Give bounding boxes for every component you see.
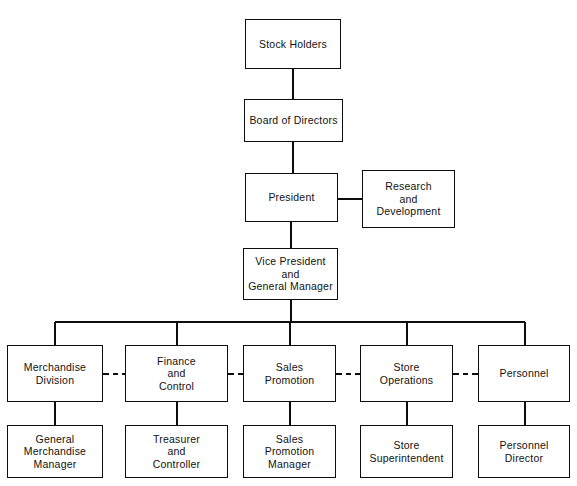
node-board-of-directors[interactable]: Board of Directors <box>244 99 343 142</box>
node-label: Store Superintendent <box>363 439 450 464</box>
node-label: Stock Holders <box>248 38 338 51</box>
node-merchandise-division[interactable]: Merchandise Division <box>7 345 103 402</box>
node-sales-promotion-manager[interactable]: Sales Promotion Manager <box>243 425 336 478</box>
node-general-merchandise-manager[interactable]: General Merchandise Manager <box>7 425 103 478</box>
node-label: Finance and Control <box>128 355 225 393</box>
node-treasurer-and-controller[interactable]: Treasurer and Controller <box>125 425 228 478</box>
node-store-superintendent[interactable]: Store Superintendent <box>360 425 453 478</box>
node-label: Board of Directors <box>247 114 340 127</box>
node-finance-and-control[interactable]: Finance and Control <box>125 345 228 402</box>
node-label: Sales Promotion <box>246 361 333 386</box>
node-label: Research and Development <box>365 180 452 218</box>
connector-layer <box>0 0 577 486</box>
node-label: Personnel Director <box>481 439 567 464</box>
node-label: President <box>248 191 335 204</box>
node-president[interactable]: President <box>245 173 338 222</box>
node-vice-president-and-general-manager[interactable]: Vice President and General Manager <box>243 248 338 300</box>
node-label: General Merchandise Manager <box>10 433 100 471</box>
node-label: Treasurer and Controller <box>128 433 225 471</box>
node-label: Merchandise Division <box>10 361 100 386</box>
node-research-and-development[interactable]: Research and Development <box>362 170 455 228</box>
node-label: Vice President and General Manager <box>246 255 335 293</box>
node-personnel[interactable]: Personnel <box>478 345 570 402</box>
node-stock-holders[interactable]: Stock Holders <box>245 19 341 69</box>
node-label: Store Operations <box>363 361 450 386</box>
node-label: Personnel <box>481 367 567 380</box>
node-sales-promotion[interactable]: Sales Promotion <box>243 345 336 402</box>
org-chart-canvas: Stock Holders Board of Directors Preside… <box>0 0 577 486</box>
node-personnel-director[interactable]: Personnel Director <box>478 425 570 478</box>
node-label: Sales Promotion Manager <box>246 433 333 471</box>
node-store-operations[interactable]: Store Operations <box>360 345 453 402</box>
